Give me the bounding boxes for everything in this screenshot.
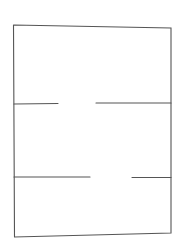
upper-partition-segment-left [14,104,58,105]
upper-partition [14,103,171,104]
partitions [14,103,171,178]
floor-plan-drawing [0,0,183,246]
floor-plan-canvas [0,0,183,246]
lower-partition [14,177,171,178]
outer-wall [14,25,172,237]
